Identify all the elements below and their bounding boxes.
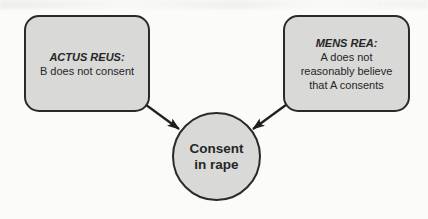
actus-reus-node: ACTUS REUS: B does not consent [24, 15, 150, 112]
mens-rea-arrow [253, 102, 290, 129]
actus-reus-title: ACTUS REUS: [49, 50, 124, 64]
consent-circle-line-1: Consent [190, 141, 244, 157]
mens-rea-body-line-3: that A consents [309, 78, 384, 92]
mens-rea-body-line-1: A does not [321, 50, 373, 64]
actus-reus-body: B does not consent [40, 64, 134, 78]
consent-circle-line-2: in rape [194, 157, 238, 173]
diagram-canvas: ACTUS REUS: B does not consent MENS REA:… [0, 0, 428, 219]
mens-rea-body-line-2: reasonably believe [301, 64, 393, 78]
scan-artifact [0, 0, 428, 9]
consent-circle-node: Consent in rape [172, 112, 261, 201]
mens-rea-node: MENS REA: A does not reasonably believe … [283, 15, 410, 112]
actus-reus-arrow [142, 102, 179, 129]
mens-rea-title: MENS REA: [316, 36, 378, 50]
